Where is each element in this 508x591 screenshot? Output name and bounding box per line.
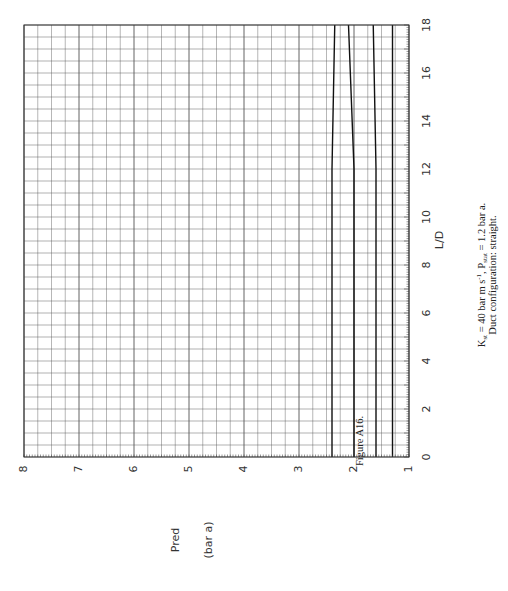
pred-axis-unit: (bar a) bbox=[202, 521, 215, 558]
ld-tick-label: 6 bbox=[420, 310, 433, 317]
ld-tick-label: 2 bbox=[420, 406, 433, 413]
ld-tick-label: 4 bbox=[420, 358, 433, 365]
ld-tick-label: 0 bbox=[420, 454, 433, 461]
pred-tick-label: 1 bbox=[402, 466, 415, 473]
pred-tick-label: 8 bbox=[17, 466, 30, 473]
ld-tick-label: 18 bbox=[420, 18, 433, 32]
ld-tick-label: 10 bbox=[420, 210, 433, 224]
ld-axis-title: L/D bbox=[433, 231, 446, 249]
ld-axis-ticks: 024681012141618 bbox=[404, 18, 433, 461]
ld-tick-label: 8 bbox=[420, 262, 433, 269]
chart: 024681012141618 12345678 L/D Pred (bar a… bbox=[0, 0, 508, 591]
pred-tick-label: 4 bbox=[237, 466, 250, 473]
ld-tick-label: 16 bbox=[420, 66, 433, 80]
pred-tick-label: 7 bbox=[72, 466, 85, 473]
pred-tick-label: 3 bbox=[292, 466, 305, 473]
ld-tick-label: 14 bbox=[420, 114, 433, 128]
pred-tick-label: 6 bbox=[127, 466, 140, 473]
caption-block: Kst = 40 bar m s-1, Pstat = 1.2 bar a. D… bbox=[475, 203, 498, 347]
caption-line-2: Duct configuration: straight. bbox=[487, 215, 498, 334]
figure-label: Figure A16. bbox=[354, 416, 365, 466]
pred-tick-label: 5 bbox=[182, 466, 195, 473]
ld-tick-label: 12 bbox=[420, 162, 433, 176]
pred-axis-title: Pred bbox=[169, 528, 182, 552]
